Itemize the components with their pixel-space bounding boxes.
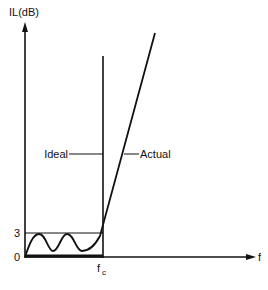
cutoff-frequency-label: f c bbox=[97, 262, 106, 277]
y-tick-0: 0 bbox=[14, 251, 20, 263]
y-axis bbox=[22, 22, 28, 258]
y-axis-label: IL(dB) bbox=[9, 6, 39, 18]
svg-text:f: f bbox=[97, 262, 101, 274]
svg-text:c: c bbox=[102, 268, 106, 277]
insertion-loss-diagram: IL(dB) f 3 0 Ideal Actual f c bbox=[0, 0, 268, 290]
y-axis-arrow-icon bbox=[22, 22, 28, 32]
x-axis-arrow-icon bbox=[246, 254, 256, 260]
actual-label: Actual bbox=[140, 148, 171, 160]
x-axis-label: f bbox=[258, 251, 262, 263]
actual-response bbox=[25, 33, 155, 257]
y-tick-3: 3 bbox=[14, 227, 20, 239]
ideal-label: Ideal bbox=[44, 148, 68, 160]
